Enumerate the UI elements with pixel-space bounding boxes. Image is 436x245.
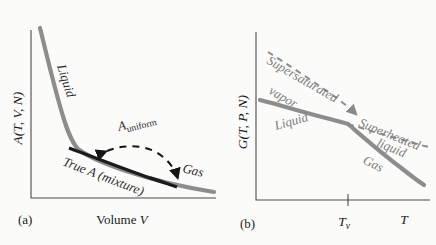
panel-b-tag: (b) bbox=[240, 216, 255, 231]
panel-b-tv-tick-label: Tv bbox=[338, 214, 351, 231]
panel-b: G(T, P, N) T Tv (b) Supersaturated vapor… bbox=[235, 32, 430, 231]
panel-a-label-a-uniform: Auniform bbox=[115, 110, 158, 136]
panel-b-x-axis-label: T bbox=[400, 212, 409, 227]
panel-a-y-axis-label: A(T, V, N) bbox=[10, 91, 25, 145]
panel-a: A(T, V, N) Volume V (a) Liquid Gas Aunif… bbox=[10, 28, 216, 227]
panel-a-label-gas: Gas bbox=[181, 160, 205, 180]
figure-svg: A(T, V, N) Volume V (a) Liquid Gas Aunif… bbox=[0, 0, 436, 245]
panel-b-y-axis-label: G(T, P, N) bbox=[235, 94, 250, 149]
panel-b-label-liquid: Liquid bbox=[272, 109, 310, 133]
panel-a-x-axis-label: Volume V bbox=[96, 212, 149, 227]
panel-a-tag: (a) bbox=[18, 212, 32, 227]
figure-container: A(T, V, N) Volume V (a) Liquid Gas Aunif… bbox=[0, 0, 436, 245]
